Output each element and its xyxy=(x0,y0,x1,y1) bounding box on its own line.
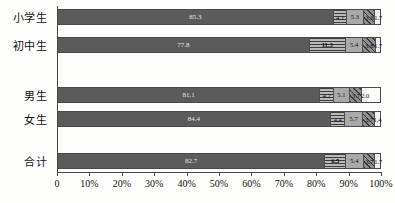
chart-row: 小学生85.35.34.13.61.7 xyxy=(0,8,395,26)
bar-segment: 81.1 xyxy=(58,88,319,102)
segment-value: 5.7 xyxy=(350,116,358,123)
chart-row: 女生84.45.74.43.71.4 xyxy=(0,110,395,128)
stacked-bar-chart: 小学生85.35.34.13.61.7初中生77.811.35.43.81.7男… xyxy=(0,0,395,203)
segment-value-outside: 3.7 xyxy=(352,92,360,99)
x-tick-label: 100% xyxy=(369,178,392,189)
segment-value-outside: 1.4 xyxy=(373,116,381,123)
x-tick-label: 0 xyxy=(55,178,60,189)
segment-value: 11.3 xyxy=(322,42,333,49)
x-tick xyxy=(349,172,350,176)
bar-segment: 11.3 xyxy=(309,38,345,52)
x-tick-label: 40% xyxy=(177,178,195,189)
bar-segment: 5.7 xyxy=(344,112,362,126)
chart-row: 合计82.76.55.43.71.7 xyxy=(0,152,395,170)
segment-value: 84.4 xyxy=(188,116,200,123)
segment-value: 77.8 xyxy=(177,42,189,49)
x-tick-label: 20% xyxy=(113,178,131,189)
segment-value: 5.4 xyxy=(350,42,358,49)
x-tick xyxy=(381,172,382,176)
x-tick-label: 90% xyxy=(339,178,357,189)
segment-value: 81.1 xyxy=(182,92,194,99)
x-tick xyxy=(219,172,220,176)
bar-segment: 5.4 xyxy=(345,154,362,168)
segment-value: 5.3 xyxy=(351,14,359,21)
bar-segment: 5.4 xyxy=(345,38,362,52)
segment-value-outside: 1.7 xyxy=(374,158,382,165)
segment-value: 85.3 xyxy=(189,14,201,21)
chart-row: 初中生77.811.35.43.81.7 xyxy=(0,36,395,54)
segment-value-outside: 3.7 xyxy=(365,158,373,165)
segment-value: 5.4 xyxy=(350,158,358,165)
stacked-bar: 82.76.55.4 xyxy=(57,153,381,169)
x-tick-label: 70% xyxy=(275,178,293,189)
bar-segment: 82.7 xyxy=(58,154,324,168)
segment-value-outside: 1.7 xyxy=(374,14,382,21)
x-tick-label: 80% xyxy=(307,178,325,189)
bar-segment: 6.5 xyxy=(324,154,345,168)
stacked-bar: 77.811.35.4 xyxy=(57,37,381,53)
segment-value-outside: 3.8 xyxy=(365,42,373,49)
row-label: 男生 xyxy=(0,86,52,104)
y-axis-line xyxy=(57,6,58,172)
x-tick xyxy=(284,172,285,176)
x-tick-label: 30% xyxy=(145,178,163,189)
segment-value-outside: 3.6 xyxy=(366,14,374,21)
row-label: 小学生 xyxy=(0,8,52,26)
x-tick xyxy=(187,172,188,176)
x-tick-label: 10% xyxy=(80,178,98,189)
row-label: 初中生 xyxy=(0,36,52,54)
row-label: 合计 xyxy=(0,152,52,170)
x-tick xyxy=(89,172,90,176)
x-tick xyxy=(122,172,123,176)
x-tick xyxy=(251,172,252,176)
segment-value-outside: 1.7 xyxy=(374,42,382,49)
x-tick-label: 60% xyxy=(242,178,260,189)
bar-segment: 5.3 xyxy=(346,10,363,24)
segment-value: 82.7 xyxy=(185,158,197,165)
bar-segment: 77.8 xyxy=(58,38,309,52)
stacked-bar: 84.45.7 xyxy=(57,111,381,127)
x-tick-label: 50% xyxy=(210,178,228,189)
row-label: 女生 xyxy=(0,110,52,128)
bar-segment: 84.4 xyxy=(58,112,330,126)
stacked-bar: 81.15.1 xyxy=(57,87,381,103)
stacked-bar: 85.35.3 xyxy=(57,9,381,25)
segment-value: 6.5 xyxy=(331,158,339,165)
chart-row: 男生81.15.14.23.72.0 xyxy=(0,86,395,104)
x-tick xyxy=(57,172,58,176)
x-tick xyxy=(316,172,317,176)
segment-value-outside: 4.2 xyxy=(323,92,331,99)
segment-value-outside: 4.1 xyxy=(336,14,344,21)
bar-segment: 85.3 xyxy=(58,10,333,24)
bar-segment: 5.1 xyxy=(333,88,349,102)
segment-value-outside: 3.7 xyxy=(365,116,373,123)
segment-value-outside: 2.0 xyxy=(361,92,369,99)
x-tick xyxy=(154,172,155,176)
segment-value: 5.1 xyxy=(337,92,345,99)
segment-value-outside: 4.4 xyxy=(334,116,342,123)
